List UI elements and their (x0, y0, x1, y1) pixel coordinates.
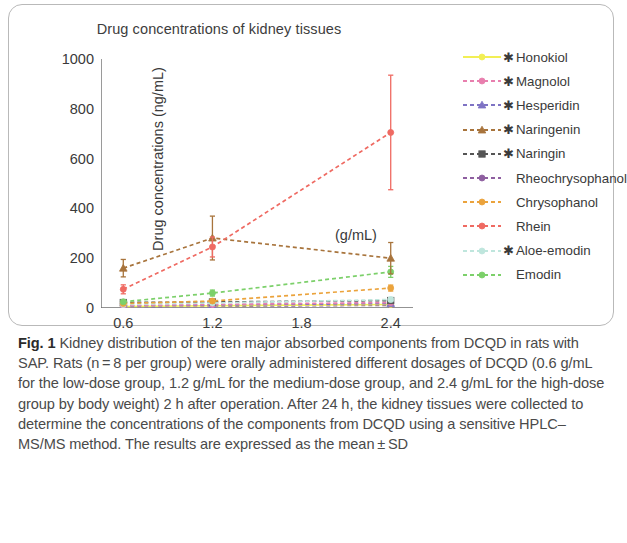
axes-layer (101, 59, 413, 308)
legend-marker-icon (461, 74, 503, 88)
legend-item-label: Magnolol (514, 74, 570, 89)
plot-area: 02004006008001000 0.61.21.82.4 Drug conc… (101, 59, 413, 308)
legend-item-hesperidin[interactable]: ✱Hesperidin (461, 93, 621, 117)
legend-item-label: Hesperidin (514, 98, 580, 113)
chart-panel: Drug concentrations of kidney tissues 02… (8, 4, 614, 326)
legend-significance-star-icon: ✱ (503, 244, 514, 257)
legend-marker-glyph (479, 223, 485, 229)
y-tick-label: 1000 (62, 51, 94, 67)
chart-title: Drug concentrations of kidney tissues (9, 21, 429, 37)
legend-item-naringin[interactable]: ✱Naringin (461, 142, 621, 166)
y-axis-title: Drug concentrations (ng/mL) (150, 44, 166, 274)
legend-significance-star-icon: ✱ (503, 147, 514, 160)
legend-marker-icon (461, 171, 503, 185)
y-tick-label: 200 (70, 250, 94, 266)
legend-item-aloe-emodin[interactable]: ✱Aloe-emodin (461, 239, 621, 263)
legend-item-label: Chrysophanol (514, 195, 598, 210)
legend-significance-star-icon: ✱ (503, 75, 514, 88)
legend-item-label: Aloe-emodin (514, 243, 591, 258)
legend-item-label: Emodin (514, 267, 561, 282)
legend-item-honokiol[interactable]: ✱Honokiol (461, 45, 621, 69)
legend-item-magnolol[interactable]: ✱Magnolol (461, 69, 621, 93)
legend-marker-icon (461, 195, 503, 209)
data-point (209, 290, 215, 296)
x-tick-label: 2.4 (381, 315, 401, 331)
legend-item-label: Naringenin (514, 122, 580, 137)
legend-marker-glyph (479, 248, 485, 254)
x-tick-label: 0.6 (113, 315, 133, 331)
x-tick-label: 1.2 (202, 315, 222, 331)
figure-caption-label: Fig. 1 (18, 335, 56, 351)
legend-item-label: Rhein (514, 219, 551, 234)
data-point (209, 244, 215, 250)
legend-marker-glyph (479, 54, 485, 60)
data-point (388, 285, 394, 291)
legend-item-emodin[interactable]: ✱Emodin (461, 263, 621, 287)
legend-item-label: Rheochrysophanol (514, 171, 627, 186)
figure-caption-text: Kidney distribution of the ten major abs… (18, 335, 604, 452)
legend-item-chrysophanol[interactable]: ✱Chrysophanol (461, 190, 621, 214)
data-point (120, 286, 126, 292)
x-tick-label: 1.8 (291, 315, 311, 331)
legend-item-rheochrysophanol[interactable]: ✱Rheochrysophanol (461, 166, 621, 190)
legend-marker-glyph (479, 272, 485, 278)
data-point (387, 254, 395, 261)
y-tick-label: 0 (86, 300, 94, 316)
legend-significance-star-icon: ✱ (503, 51, 514, 64)
legend-significance-star-icon: ✱ (503, 123, 514, 136)
legend-significance-star-icon: ✱ (503, 99, 514, 112)
legend-marker-icon (461, 219, 503, 233)
legend-marker-icon (461, 123, 503, 137)
legend-marker-icon (461, 147, 503, 161)
data-point (120, 299, 126, 305)
plot-svg (101, 59, 413, 308)
legend-item-naringenin[interactable]: ✱Naringenin (461, 118, 621, 142)
legend-marker-icon (461, 244, 503, 258)
legend-item-rhein[interactable]: ✱Rhein (461, 214, 621, 238)
data-point (388, 297, 394, 303)
legend-marker-icon (461, 268, 503, 282)
y-tick-label: 400 (70, 200, 94, 216)
legend-marker-glyph (479, 78, 485, 84)
data-point (388, 129, 394, 135)
data-point (209, 298, 215, 304)
legend-item-label: Honokiol (514, 50, 568, 65)
legend-marker-icon (461, 50, 503, 64)
legend-marker-icon (461, 98, 503, 112)
legend-marker-glyph (479, 199, 485, 205)
x-axis-unit-label: (g/mL) (335, 227, 377, 243)
legend-marker-glyph (479, 151, 485, 157)
legend-marker-glyph (479, 175, 485, 181)
figure-caption: Fig. 1 Kidney distribution of the ten ma… (18, 333, 608, 454)
chart-legend: ✱Honokiol✱Magnolol✱Hesperidin✱Naringenin… (461, 45, 621, 287)
y-tick-label: 600 (70, 151, 94, 167)
y-tick-label: 800 (70, 101, 94, 117)
legend-item-label: Naringin (514, 146, 566, 161)
